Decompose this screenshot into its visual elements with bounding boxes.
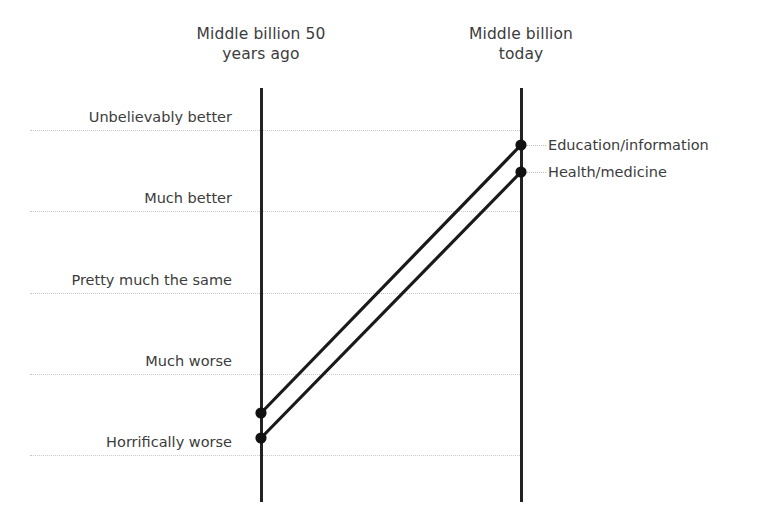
y-label-much-worse: Much worse bbox=[145, 353, 232, 370]
series-label-health-medicine: Health/medicine bbox=[548, 164, 667, 181]
axis-title-left-line2: years ago bbox=[222, 45, 299, 63]
axis-title-right: Middle billiontoday bbox=[401, 24, 641, 64]
axis-title-right-line1: Middle billion bbox=[469, 25, 573, 43]
gridline-pretty-much-the-same bbox=[30, 293, 522, 294]
gridline-horrifically-worse bbox=[30, 455, 522, 456]
y-label-pretty-much-the-same: Pretty much the same bbox=[71, 272, 232, 289]
y-label-much-better: Much better bbox=[144, 190, 232, 207]
gridline-much-better bbox=[30, 211, 522, 212]
axis-line-right bbox=[520, 88, 523, 502]
gridline-unbelievably-better bbox=[30, 130, 522, 131]
axis-title-left-line1: Middle billion 50 bbox=[197, 25, 326, 43]
gridline-much-worse bbox=[30, 374, 522, 375]
axis-title-right-line2: today bbox=[499, 45, 544, 63]
y-label-unbelievably-better: Unbelievably better bbox=[89, 109, 232, 126]
leader-line-education-information bbox=[527, 145, 546, 146]
axis-line-left bbox=[260, 88, 263, 502]
slope-line-education-information bbox=[261, 145, 521, 413]
y-label-horrifically-worse: Horrifically worse bbox=[106, 434, 232, 451]
series-label-education-information: Education/information bbox=[548, 137, 709, 154]
leader-line-health-medicine bbox=[527, 172, 546, 173]
slopegraph-chart: Middle billion 50years ago Middle billio… bbox=[0, 0, 769, 526]
axis-title-left: Middle billion 50years ago bbox=[141, 24, 381, 64]
